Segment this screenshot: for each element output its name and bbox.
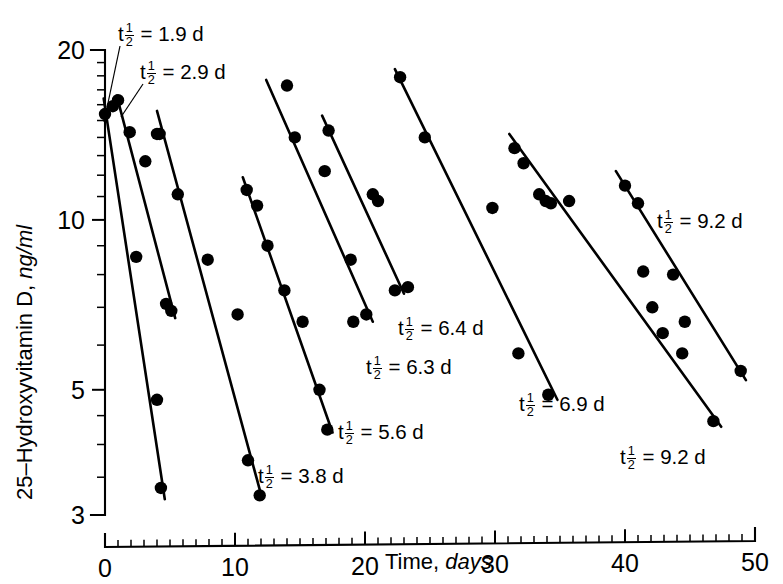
data-point xyxy=(512,347,524,359)
half-life-symbol: t xyxy=(258,464,264,487)
half-life-symbol: t xyxy=(620,445,626,468)
data-point xyxy=(646,301,658,313)
half-life-symbol: t xyxy=(398,316,404,339)
half-life-unit: d xyxy=(588,392,605,415)
x-tick-label: 10 xyxy=(221,553,249,581)
data-point xyxy=(707,415,719,427)
half-life-value: 3.8 xyxy=(298,464,327,487)
one-half-fraction: 12 xyxy=(345,420,354,447)
data-point xyxy=(667,268,679,280)
data-point xyxy=(261,240,273,252)
chart-canvas: 35102001020304050 xyxy=(0,0,783,584)
data-point xyxy=(242,454,254,466)
data-point xyxy=(394,71,406,83)
equals-sign: = xyxy=(674,209,697,232)
data-point xyxy=(360,308,372,320)
one-half-fraction: 12 xyxy=(125,22,134,49)
data-point xyxy=(139,155,151,167)
half-life-symbol: t xyxy=(657,209,663,232)
data-point xyxy=(517,157,529,169)
equals-sign: = xyxy=(135,22,158,45)
data-point xyxy=(172,188,184,200)
one-half-fraction: 12 xyxy=(664,209,673,236)
data-point xyxy=(289,131,301,143)
data-point xyxy=(241,184,253,196)
data-point xyxy=(151,394,163,406)
x-tick-label: 20 xyxy=(351,552,379,580)
data-point xyxy=(231,308,243,320)
data-point xyxy=(735,365,747,377)
fraction-denominator: 2 xyxy=(664,223,673,236)
fraction-denominator: 2 xyxy=(345,434,354,447)
regression-line xyxy=(322,116,404,294)
data-point xyxy=(254,489,266,501)
figure-root: 35102001020304050 t12 = 1.9 dt12 = 2.9 d… xyxy=(0,0,783,584)
data-point xyxy=(251,199,263,211)
data-point xyxy=(676,347,688,359)
data-point xyxy=(296,316,308,328)
half-life-annotation: t12 = 1.9 d xyxy=(118,22,204,49)
one-half-fraction: 12 xyxy=(405,316,414,343)
one-half-fraction: 12 xyxy=(265,464,274,491)
data-point xyxy=(345,254,357,266)
half-life-value: 9.2 xyxy=(660,445,689,468)
y-tick-label: 3 xyxy=(71,501,85,529)
half-life-annotation: t12 = 6.9 d xyxy=(519,392,605,419)
half-life-symbol: t xyxy=(118,22,124,45)
data-point xyxy=(130,251,142,263)
equals-sign: = xyxy=(355,420,378,443)
fraction-denominator: 2 xyxy=(526,406,535,419)
data-point xyxy=(281,79,293,91)
fraction-denominator: 2 xyxy=(147,74,156,87)
fraction-denominator: 2 xyxy=(265,478,274,491)
one-half-fraction: 12 xyxy=(373,355,382,382)
fraction-denominator: 2 xyxy=(405,330,414,343)
data-point xyxy=(402,281,414,293)
regression-line xyxy=(509,134,721,427)
data-point xyxy=(347,316,359,328)
half-life-unit: d xyxy=(726,209,743,232)
half-life-symbol: t xyxy=(338,420,344,443)
data-point xyxy=(419,131,431,143)
equals-sign: = xyxy=(415,316,438,339)
half-life-unit: d xyxy=(187,22,204,45)
data-point xyxy=(313,384,325,396)
half-life-unit: d xyxy=(467,316,484,339)
annotation-leader-line xyxy=(121,84,143,117)
data-point xyxy=(657,327,669,339)
y-tick-label: 10 xyxy=(57,206,85,234)
half-life-value: 6.4 xyxy=(438,316,467,339)
half-life-unit: d xyxy=(435,355,452,378)
half-life-value: 6.3 xyxy=(406,355,435,378)
half-life-annotation: t12 = 9.2 d xyxy=(657,209,743,236)
half-life-unit: d xyxy=(209,60,226,83)
fraction-denominator: 2 xyxy=(627,459,636,472)
equals-sign: = xyxy=(536,392,559,415)
y-tick-label: 20 xyxy=(57,36,85,64)
data-point xyxy=(202,254,214,266)
data-point xyxy=(319,165,331,177)
fraction-denominator: 2 xyxy=(373,369,382,382)
half-life-value: 2.9 xyxy=(180,60,209,83)
x-axis-title-plain: Time, xyxy=(385,549,439,574)
data-point xyxy=(372,195,384,207)
data-point xyxy=(155,482,167,494)
equals-sign: = xyxy=(157,60,180,83)
x-tick-label: 40 xyxy=(611,549,639,577)
y-axis-title: 25–Hydroxyvitamin D, ng/ml xyxy=(12,225,38,500)
x-tick-label: 0 xyxy=(98,554,112,582)
half-life-unit: d xyxy=(407,420,424,443)
data-point xyxy=(165,305,177,317)
half-life-value: 9.2 xyxy=(697,209,726,232)
data-point xyxy=(389,284,401,296)
data-point xyxy=(508,142,520,154)
regression-line xyxy=(395,69,558,400)
half-life-value: 1.9 xyxy=(158,22,187,45)
half-life-annotation: t12 = 9.2 d xyxy=(620,445,706,472)
half-life-unit: d xyxy=(689,445,706,468)
one-half-fraction: 12 xyxy=(526,392,535,419)
data-point xyxy=(124,126,136,138)
half-life-symbol: t xyxy=(366,355,372,378)
data-point xyxy=(545,197,557,209)
y-tick-label: 5 xyxy=(71,376,85,404)
